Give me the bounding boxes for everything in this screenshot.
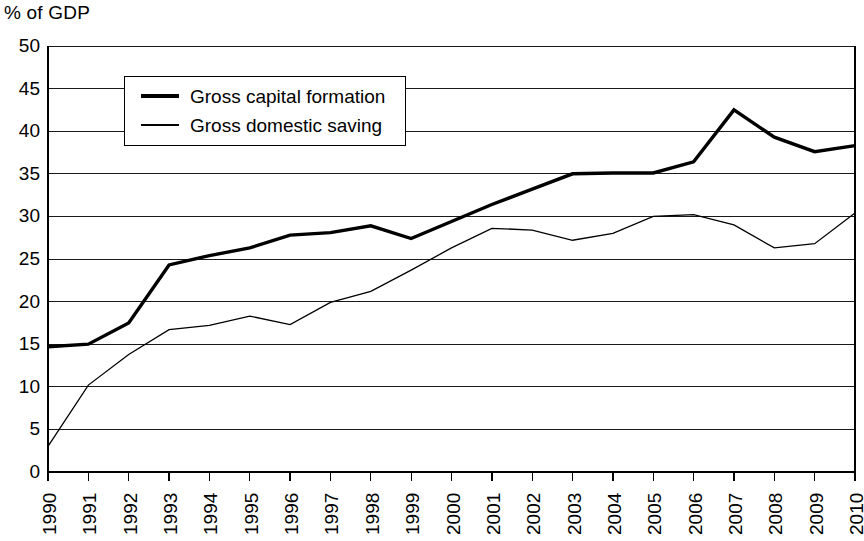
legend-label-1: Gross domestic saving: [190, 116, 382, 135]
x-tick-label: 2004: [605, 493, 624, 535]
x-tick-label: 1995: [242, 493, 261, 535]
x-tick-label: 1999: [403, 493, 422, 535]
x-tick-label: 2000: [444, 493, 463, 535]
x-tick-label: 1996: [282, 493, 301, 535]
y-tick-label: 20: [0, 292, 40, 311]
y-tick-label: 30: [0, 206, 40, 225]
x-tick-label: 2010: [847, 493, 864, 535]
legend-entry-gross-domestic-saving: Gross domestic saving: [125, 111, 405, 139]
x-tick-label: 1993: [161, 493, 180, 535]
x-tick-label: 2003: [565, 493, 584, 535]
y-tick-label: 5: [0, 419, 40, 438]
x-tick-label: 1997: [322, 493, 341, 535]
chart-legend: Gross capital formation Gross domestic s…: [124, 76, 406, 146]
x-tick-label: 1990: [40, 493, 59, 535]
x-tick-label: 2008: [766, 493, 785, 535]
y-tick-label: 50: [0, 36, 40, 55]
legend-entry-gross-capital-formation: Gross capital formation: [125, 82, 405, 110]
legend-line-swatch-thick-icon: [141, 89, 179, 103]
y-tick-label: 15: [0, 334, 40, 353]
x-tick-label: 2001: [484, 493, 503, 535]
x-axis-tickmarks: [48, 472, 855, 481]
y-tick-label: 35: [0, 164, 40, 183]
legend-label-0: Gross capital formation: [190, 87, 385, 106]
chart-container: % of GDP 50454035302520151050 1990199119…: [0, 0, 864, 541]
x-tick-label: 1992: [121, 493, 140, 535]
y-tick-label: 0: [0, 462, 40, 481]
x-tick-label: 1994: [201, 493, 220, 535]
x-tick-label: 2006: [686, 493, 705, 535]
legend-line-swatch-thin-icon: [141, 118, 179, 132]
y-tick-label: 10: [0, 377, 40, 396]
x-tick-label: 2007: [726, 493, 745, 535]
x-tick-label: 2009: [807, 493, 826, 535]
x-tick-label: 2002: [524, 493, 543, 535]
x-tick-label: 1998: [363, 493, 382, 535]
x-tick-label: 1991: [80, 493, 99, 535]
y-tick-label: 45: [0, 79, 40, 98]
y-tick-label: 25: [0, 249, 40, 268]
x-tick-label: 2005: [645, 493, 664, 535]
series-line-gross-domestic-saving: [48, 213, 855, 446]
y-tick-label: 40: [0, 121, 40, 140]
